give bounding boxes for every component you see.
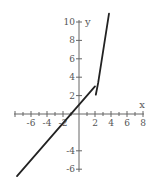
- curve-piece-1: [17, 86, 95, 176]
- curves: [17, 14, 109, 176]
- x-tick-label: 8: [140, 118, 146, 128]
- y-tick-label: 2: [69, 91, 75, 101]
- x-tick-label: 2: [92, 118, 98, 128]
- x-tick-label: 6: [124, 118, 130, 128]
- y-tick-label: 8: [69, 35, 75, 45]
- y-axis-label: y: [84, 16, 91, 27]
- y-tick-label: -6: [66, 164, 75, 174]
- piecewise-function-plot: -6-4-22468-6-4246810xy: [0, 0, 154, 183]
- y-tick-label: 10: [64, 17, 76, 27]
- x-tick-label: -6: [27, 118, 36, 128]
- x-axis-label: x: [139, 99, 145, 110]
- x-tick-label: -4: [43, 118, 52, 128]
- curve-piece-2: [96, 14, 109, 95]
- y-tick-label: -4: [66, 146, 75, 156]
- y-tick-label: 4: [69, 72, 75, 82]
- x-tick-label: 4: [108, 118, 114, 128]
- y-tick-label: 6: [69, 54, 75, 64]
